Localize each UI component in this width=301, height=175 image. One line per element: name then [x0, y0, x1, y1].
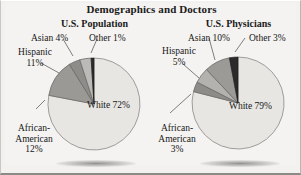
right-pie-shadow [200, 160, 280, 167]
right-label-hispanic-value: 5% [153, 57, 205, 68]
right-label-afam-value: 3% [146, 144, 208, 155]
right-label-hispanic: Hispanic 5% [153, 46, 205, 67]
right-label-afam-line2: American [146, 134, 208, 145]
left-label-hispanic-name: Hispanic [9, 47, 61, 58]
page-title: Demographics and Doctors [1, 3, 301, 15]
right-chart-title: U.S. Physicians [171, 18, 301, 29]
left-label-white: White 72% [87, 100, 130, 111]
right-label-african-american: African- American 3% [146, 123, 208, 155]
left-label-other: Other 1% [89, 33, 126, 44]
left-label-afam-line2: American [3, 134, 65, 145]
left-pie-shadow [56, 160, 136, 167]
left-label-asian: Asian 4% [31, 33, 68, 44]
right-label-afam-line1: African- [146, 123, 208, 134]
left-label-african-american: African- American 12% [3, 123, 65, 155]
right-label-hispanic-name: Hispanic [153, 46, 205, 57]
chart-figure: Demographics and Doctors U.S. Population… [0, 0, 301, 175]
right-label-asian: Asian 10% [188, 33, 230, 44]
left-label-afam-value: 12% [3, 144, 65, 155]
left-chart-title: U.S. Population [27, 18, 162, 29]
left-label-hispanic-value: 11% [9, 58, 61, 69]
left-label-afam-line1: African- [3, 123, 65, 134]
left-label-hispanic: Hispanic 11% [9, 47, 61, 68]
right-label-other: Other 3% [249, 33, 286, 44]
right-label-white: White 79% [229, 101, 272, 112]
